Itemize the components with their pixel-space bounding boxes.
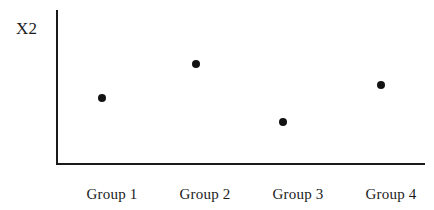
data-point [192,60,200,68]
plot-area [0,0,434,210]
x-axis-tick-label-group-3: Group 3 [273,185,324,203]
x-axis-tick-label-group-2: Group 2 [180,185,231,203]
data-point [377,81,385,89]
data-point [98,94,106,102]
scatter-plot-figure: X2 Group 1 Group 2 Group 3 Group 4 [0,0,434,210]
data-point [279,118,287,126]
x-axis-tick-label-group-4: Group 4 [366,185,417,203]
x-axis-tick-label-group-1: Group 1 [87,185,138,203]
